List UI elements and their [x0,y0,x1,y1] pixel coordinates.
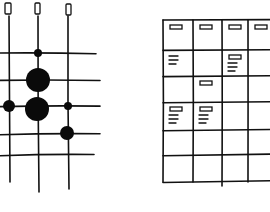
card-title-tag [170,25,182,29]
data-dot[interactable] [60,126,74,140]
grid-row-line [163,129,270,130]
row-line [0,134,100,135]
card-title-tag [229,55,241,59]
card-grid [163,20,270,186]
card-title-tag [200,81,212,85]
grid-card[interactable] [200,81,212,85]
column-line [9,16,10,182]
grid-card[interactable] [228,55,241,71]
card-title-tag [170,107,182,111]
grid-row-line [163,50,270,51]
card-title-tag [229,25,241,29]
data-dot[interactable] [26,68,50,92]
grid-row-line [163,154,270,156]
grid-row-line [163,76,270,77]
grid-card[interactable] [200,25,212,29]
card-title-tag [200,107,212,111]
grid-row-line [163,102,270,103]
grid-row-line [163,181,270,183]
column-handle[interactable] [66,4,71,15]
dot-matrix-chart [0,3,100,192]
column-handle[interactable] [5,3,11,14]
row-line [0,106,100,107]
card-title-tag [255,25,267,29]
grid-card[interactable] [170,25,182,29]
grid-card[interactable] [169,107,182,123]
card-title-tag [200,25,212,29]
data-dot[interactable] [64,102,72,110]
grid-card[interactable] [199,107,212,123]
grid-card[interactable] [255,25,267,29]
grid-card[interactable] [229,25,241,29]
data-dot[interactable] [3,100,15,112]
data-dot[interactable] [25,97,49,121]
grid-card[interactable] [169,56,178,64]
column-handle[interactable] [35,3,40,14]
data-dot[interactable] [34,49,42,57]
row-line [0,154,94,155]
row-line [0,53,96,54]
sketch-canvas [0,0,270,212]
